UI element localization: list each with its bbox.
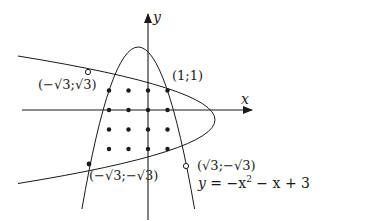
label-point-neg-sqrt3-sqrt3: (−√3;√3): [38, 77, 97, 92]
point-neg-sqrt3-sqrt3: [85, 69, 90, 74]
label-point-1-1: (1;1): [172, 68, 203, 83]
point-neg-sqrt3-neg-sqrt3: [87, 162, 92, 167]
x-axis-label: x: [241, 91, 249, 107]
label-point-neg-sqrt3-neg-sqrt3: (−√3;−√3): [89, 168, 158, 183]
integer-points-grid: [107, 88, 170, 151]
y-axis-label: y: [152, 9, 162, 25]
point-sqrt3-neg-sqrt3: [183, 163, 188, 168]
equation-tail: − x + 3: [252, 175, 310, 191]
label-point-sqrt3-neg-sqrt3: (√3;−√3): [197, 158, 256, 173]
equation-label: y = −x2 − x + 3: [197, 174, 310, 191]
equation-mid: = −x: [206, 175, 246, 191]
diagram-canvas: x y (1;1) (−√3;√3) (−√3;−√3) (√3;−√3) y …: [0, 0, 374, 221]
